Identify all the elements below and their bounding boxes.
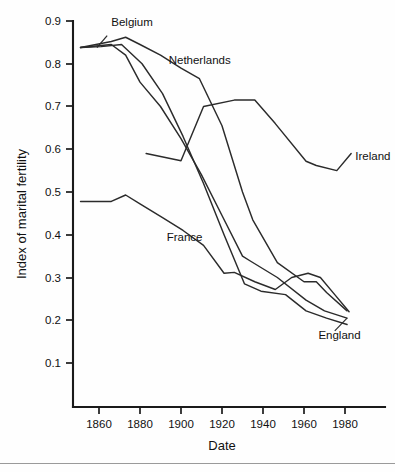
y-tick-label-0.4: 0.4 xyxy=(45,229,62,241)
series-line-netherlands xyxy=(81,37,348,311)
y-tick-label-0.2: 0.2 xyxy=(45,314,61,326)
y-tick-label-0.6: 0.6 xyxy=(45,143,61,155)
x-tick-label-1880: 1880 xyxy=(127,418,153,430)
x-tick-label-1900: 1900 xyxy=(168,418,194,430)
series-label-belgium: Belgium xyxy=(111,16,153,28)
x-tick-label-1920: 1920 xyxy=(209,418,235,430)
y-tick-label-0.5: 0.5 xyxy=(45,186,61,198)
series-layer xyxy=(81,37,352,324)
series-label-england: England xyxy=(318,329,360,341)
y-axis-title: Index of marital fertility xyxy=(14,148,29,279)
label-leader-lines xyxy=(97,36,347,331)
y-tick-label-0.1: 0.1 xyxy=(45,357,61,369)
x-tick-label-1860: 1860 xyxy=(86,418,112,430)
x-tick-label-1980: 1980 xyxy=(332,418,358,430)
figure-container: 0.9 0.8 0.7 0.6 0.5 0.4 0.3 0.2 0.1 1860… xyxy=(0,0,395,472)
series-label-ireland: Ireland xyxy=(355,150,390,162)
y-tick-label-0.9: 0.9 xyxy=(45,15,61,27)
series-line-ireland xyxy=(146,100,351,171)
y-tick-label-0.7: 0.7 xyxy=(45,100,61,112)
x-tick-label-1940: 1940 xyxy=(250,418,276,430)
x-axis-title: Date xyxy=(208,438,235,453)
series-line-belgium xyxy=(81,45,348,319)
series-label-netherlands: Netherlands xyxy=(169,54,231,66)
marital-fertility-line-chart: 0.9 0.8 0.7 0.6 0.5 0.4 0.3 0.2 0.1 1860… xyxy=(0,0,395,472)
x-tick-label-1960: 1960 xyxy=(291,418,317,430)
series-line-england xyxy=(81,45,348,325)
series-label-france: France xyxy=(167,231,203,243)
y-tick-label-0.3: 0.3 xyxy=(45,272,61,284)
footer-divider-rule xyxy=(0,463,395,464)
y-tick-label-0.8: 0.8 xyxy=(45,58,61,70)
